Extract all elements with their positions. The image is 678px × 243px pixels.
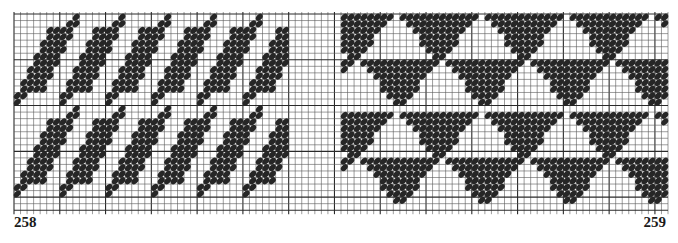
knitting-chart [0,0,678,243]
chart-label-258: 258 [14,214,37,231]
chart-label-259: 259 [644,214,667,231]
